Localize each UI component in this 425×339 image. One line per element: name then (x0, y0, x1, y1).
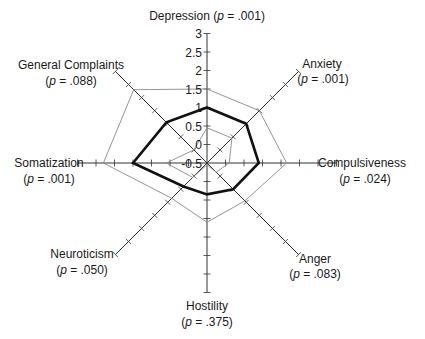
axis-label-anxiety-p: (p = .001) (297, 72, 349, 86)
axis-anger (207, 163, 299, 255)
axis-label-neuroticism-p: (p = .050) (56, 263, 108, 277)
axis-label-anxiety: Anxiety (302, 57, 341, 71)
axis-label-general-complaints-p: (p = .088) (45, 74, 97, 88)
axis-label-somatization: Somatization (14, 156, 83, 170)
axis-label-compulsiveness-p: (p = .024) (339, 172, 391, 186)
axis-label-general-complaints: General Complaints (18, 58, 124, 72)
axis-label-anger: Anger (299, 252, 331, 266)
scale-tick-label: 2 (195, 64, 202, 78)
axis-label-hostility-p: (p = .375) (181, 315, 233, 329)
scale-tick-label: 2.5 (185, 46, 202, 60)
axis-anxiety (207, 71, 299, 163)
scale-tick-label: 0.5 (185, 120, 202, 134)
axis-label-hostility: Hostility (186, 299, 228, 313)
scale-tick-label: -0.5 (181, 157, 202, 171)
axis-label-anger-p: (p = .083) (289, 267, 341, 281)
axis-label-neuroticism: Neuroticism (50, 247, 113, 261)
axis-label-compulsiveness: Compulsiveness (318, 156, 406, 170)
scale-tick-labels: -0.500.511.522.53 (181, 27, 202, 171)
scale-tick-label: 1 (195, 101, 202, 115)
radar-chart: -0.500.511.522.53 Depression (p = .001) … (0, 0, 425, 339)
axis-label-depression: Depression (p = .001) (149, 9, 265, 23)
scale-tick-label: 0 (195, 138, 202, 152)
scale-tick-label: 1.5 (185, 83, 202, 97)
scale-tick-label: 3 (195, 27, 202, 41)
axis-label-somatization-p: (p = .001) (23, 172, 75, 186)
